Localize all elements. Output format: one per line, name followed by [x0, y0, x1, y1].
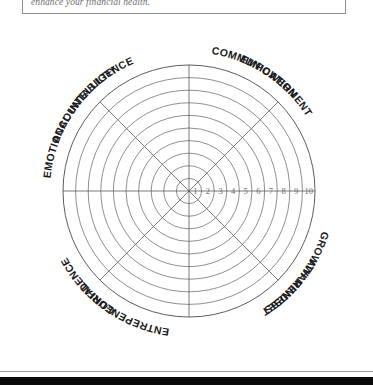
tick-5: 5 [244, 186, 248, 196]
tick-9: 9 [294, 186, 298, 196]
tick-7: 7 [269, 186, 273, 196]
label-entrepeneurial: ENTREPENEURIAL [76, 280, 170, 339]
tick-3: 3 [218, 186, 222, 196]
bottom-black-bar [0, 377, 373, 385]
tick-8: 8 [281, 186, 285, 196]
spoke-group [63, 65, 315, 317]
label-empowerment: EMPOWERMENT [239, 52, 315, 118]
tick-6: 6 [256, 186, 260, 196]
wheel-of-life-chart: 1 2 3 4 5 6 7 8 9 10 EMOTIONAL INTELLIGE… [0, 0, 373, 385]
tick-1: 1 [193, 186, 197, 196]
page-canvas: enhance your financial health. [0, 0, 373, 385]
tick-2: 2 [206, 186, 210, 196]
tick-10: 10 [304, 186, 313, 196]
bottom-divider [0, 371, 373, 372]
tick-4: 4 [231, 186, 236, 196]
label-accountabiltiy: ACCOUNTABILTIY [49, 63, 119, 145]
label-growth-mindset: GROWTH MINDSET [260, 230, 332, 318]
wheel-grid [63, 65, 315, 317]
